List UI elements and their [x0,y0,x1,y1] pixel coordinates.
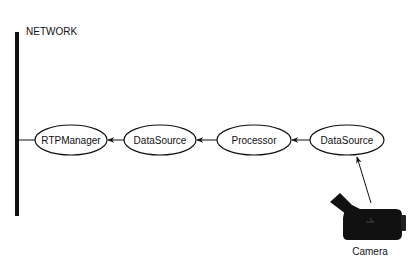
node-rtpmanager: RTPManager [35,125,107,155]
diagram-canvas: NETWORK RTPManager DataSource Processor … [0,0,414,270]
node-label: DataSource [134,135,187,146]
camera-label: Camera [352,246,388,257]
node-label: DataSource [321,135,374,146]
node-label: RTPManager [41,135,101,146]
network-label: NETWORK [26,26,77,37]
node-datasource-2: DataSource [310,125,384,155]
camera-icon [330,193,406,240]
network-bar [15,32,19,216]
node-processor: Processor [217,125,291,155]
arrow-camera-to-datasource2 [357,157,371,203]
node-label: Processor [231,135,277,146]
node-datasource-1: DataSource [124,125,196,155]
